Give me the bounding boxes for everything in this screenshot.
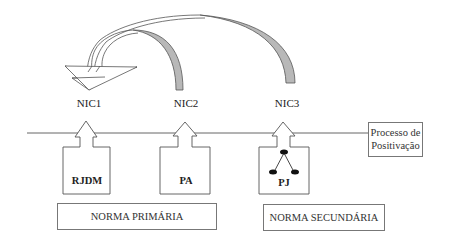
process-label-line2: Positivação <box>369 139 422 152</box>
nic1-label: NIC1 <box>77 97 101 109</box>
process-box: Processo de Positivação <box>368 122 423 157</box>
arrow-body-from-nic3 <box>87 15 200 72</box>
process-label-line1: Processo de <box>369 126 422 139</box>
nic3-label: NIC3 <box>275 97 299 109</box>
arc-nic2-band <box>133 30 183 90</box>
arc-nic2 <box>130 32 176 90</box>
pa-label: PA <box>179 175 192 186</box>
secondary-norm-label: NORMA SECUNDÁRIA <box>270 212 379 223</box>
pj-label: PJ <box>278 177 290 188</box>
rjdm-label: RJDM <box>72 175 102 186</box>
nic2-label: NIC2 <box>174 97 198 109</box>
primary-norm-box: NORMA PRIMÁRIA <box>57 203 217 230</box>
secondary-norm-box: NORMA SECUNDÁRIA <box>263 204 385 231</box>
arrow-body-from-nic2-inner <box>102 33 138 72</box>
primary-norm-label: NORMA PRIMÁRIA <box>91 211 183 222</box>
arrow-body-from-nic3-inner <box>94 18 205 72</box>
arrow-body-from-nic2 <box>92 30 133 72</box>
arc-nic3-band <box>200 15 295 83</box>
